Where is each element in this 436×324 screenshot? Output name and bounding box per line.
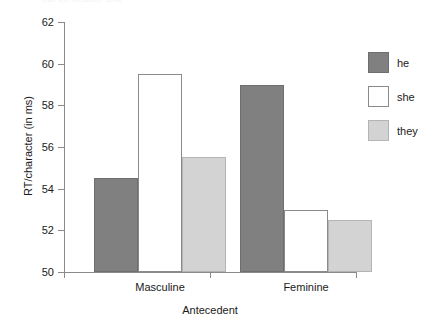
y-tick-label: 54 <box>14 184 54 195</box>
y-tick-label: 52 <box>14 225 54 236</box>
bar-masculine-he <box>94 178 138 272</box>
x-tick-mark <box>210 272 211 278</box>
x-category-label-masculine: Masculine <box>110 281 210 293</box>
legend-label-he: he <box>397 57 409 69</box>
legend-label-they: they <box>397 125 418 137</box>
y-tick-label: 60 <box>14 59 54 70</box>
legend-swatch-they <box>368 120 389 141</box>
y-tick-label: 62 <box>14 17 54 28</box>
plot-area <box>64 22 355 272</box>
y-tick-label: 58 <box>14 100 54 111</box>
bar-feminine-he <box>240 85 284 273</box>
legend-item-they[interactable]: they <box>368 120 434 142</box>
y-tick-label: 50 <box>14 267 54 278</box>
x-category-label-feminine: Feminine <box>256 281 356 293</box>
legend-swatch-he <box>368 52 389 73</box>
x-tick-mark <box>64 272 65 278</box>
bar-chart-figure: cut off header text RT/character (in ms)… <box>0 0 436 324</box>
y-tick-label: 56 <box>14 142 54 153</box>
legend: heshethey <box>368 52 434 154</box>
legend-item-he[interactable]: he <box>368 52 434 74</box>
top-edge-artifact: cut off header text <box>42 0 272 4</box>
bar-feminine-she <box>284 210 328 273</box>
legend-label-she: she <box>397 91 415 103</box>
legend-swatch-she <box>368 86 389 107</box>
x-tick-mark <box>356 272 357 278</box>
bar-feminine-they <box>328 220 372 272</box>
bar-masculine-they <box>182 157 226 272</box>
legend-item-she[interactable]: she <box>368 86 434 108</box>
x-axis-title: Antecedent <box>64 304 356 316</box>
bar-masculine-she <box>138 74 182 272</box>
